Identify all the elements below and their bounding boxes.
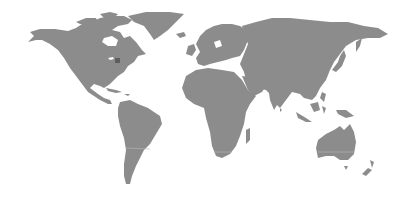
world-map — [0, 0, 415, 200]
highlighted-region-ohio — [115, 58, 120, 63]
new-zealand — [362, 160, 374, 176]
south-america — [118, 100, 162, 184]
world-map-svg — [0, 0, 415, 200]
north-america — [28, 12, 184, 104]
europe — [176, 24, 248, 66]
asia — [240, 18, 388, 122]
australia — [316, 124, 356, 170]
